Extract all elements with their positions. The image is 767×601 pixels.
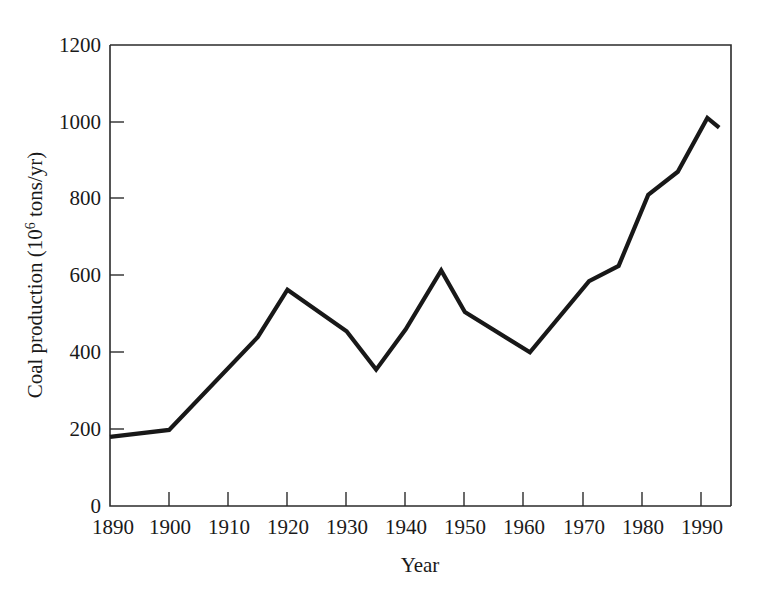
x-tick-label-1920: 1920 — [267, 515, 309, 539]
x-axis-title: Year — [401, 553, 440, 577]
x-axis-tick-labels: 1890 1900 1910 1920 1930 1940 1950 1960 … — [92, 515, 723, 539]
x-tick-label-1980: 1980 — [622, 515, 664, 539]
y-axis-title-suffix: tons/yr) — [23, 152, 47, 223]
y-tick-label-200: 200 — [70, 417, 102, 441]
y-axis-title-superscript: 6 — [23, 222, 38, 229]
x-tick-label-1930: 1930 — [326, 515, 368, 539]
x-tick-label-1890: 1890 — [92, 515, 134, 539]
y-axis-ticks — [110, 122, 124, 429]
axis-frame-left-bottom — [110, 45, 731, 506]
y-axis-tick-labels: 1200 1000 800 600 400 200 0 — [59, 33, 101, 518]
y-tick-label-600: 600 — [70, 263, 102, 287]
x-tick-label-1970: 1970 — [563, 515, 605, 539]
y-tick-label-400: 400 — [70, 340, 102, 364]
y-axis-title: Coal production (106 tons/yr) — [23, 152, 47, 399]
x-tick-label-1960: 1960 — [503, 515, 545, 539]
data-line-coal-production — [110, 118, 719, 437]
x-tick-label-1950: 1950 — [444, 515, 486, 539]
x-tick-label-1900: 1900 — [149, 515, 191, 539]
axis-frame-top-right — [110, 45, 731, 506]
y-tick-label-800: 800 — [70, 186, 102, 210]
x-axis-ticks — [169, 492, 701, 506]
y-tick-label-1200: 1200 — [59, 33, 101, 57]
x-tick-label-1940: 1940 — [385, 515, 427, 539]
y-axis-title-prefix: Coal production (10 — [23, 229, 47, 398]
chart-canvas: 1200 1000 800 600 400 200 0 1890 1900 19… — [0, 0, 767, 601]
x-tick-label-1990: 1990 — [681, 515, 723, 539]
x-tick-label-1910: 1910 — [208, 515, 250, 539]
coal-production-chart-figure: 1200 1000 800 600 400 200 0 1890 1900 19… — [0, 0, 767, 601]
y-tick-label-1000: 1000 — [59, 110, 101, 134]
